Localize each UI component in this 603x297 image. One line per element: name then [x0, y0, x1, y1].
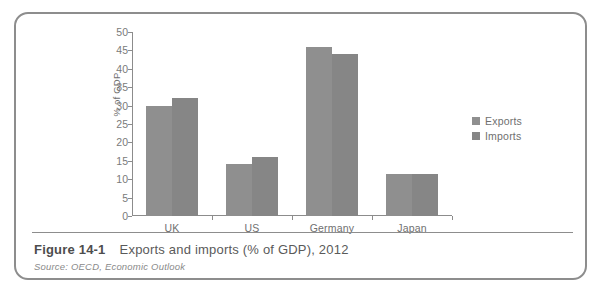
chart-region: % of GDP 05101520253035404550 UKUSGerman…: [16, 14, 589, 226]
y-tick-label: 40: [102, 64, 128, 75]
bar-exports-uk[interactable]: [146, 106, 172, 216]
x-tick-mark: [212, 216, 213, 220]
y-tick-mark: [128, 198, 132, 199]
legend-swatch-icon: [472, 132, 480, 140]
bar-imports-us[interactable]: [252, 157, 278, 216]
y-tick-mark: [128, 216, 132, 217]
y-tick-label: 30: [102, 100, 128, 111]
figure-caption: Figure 14-1Exports and imports (% of GDP…: [34, 240, 349, 258]
bar-exports-us[interactable]: [226, 164, 252, 216]
bar-group: [146, 32, 198, 216]
figure-frame: % of GDP 05101520253035404550 UKUSGerman…: [14, 12, 587, 280]
legend-item[interactable]: Exports: [472, 115, 522, 127]
legend-swatch-icon: [472, 117, 480, 125]
x-tick-mark-end: [452, 216, 453, 220]
chart-legend: ExportsImports: [472, 115, 522, 145]
y-axis-line: [132, 32, 133, 216]
y-tick-mark: [128, 87, 132, 88]
figure-title: Exports and imports (% of GDP), 2012: [120, 242, 349, 257]
figure-number: Figure 14-1: [34, 242, 106, 257]
y-tick-label: 10: [102, 174, 128, 185]
bar-exports-germany[interactable]: [306, 47, 332, 216]
legend-label: Exports: [485, 115, 522, 127]
y-tick-mark: [128, 32, 132, 33]
y-axis-tick-labels: 05101520253035404550: [102, 32, 128, 216]
y-tick-mark: [128, 179, 132, 180]
y-tick-mark: [128, 106, 132, 107]
caption-divider: [32, 232, 573, 233]
bar-exports-japan[interactable]: [386, 174, 412, 216]
y-tick-label: 0: [102, 211, 128, 222]
figure-source: Source: OECD, Economic Outlook: [34, 261, 185, 272]
y-tick-label: 15: [102, 156, 128, 167]
bar-imports-uk[interactable]: [172, 98, 198, 216]
x-tick-mark: [372, 216, 373, 220]
legend-label: Imports: [485, 130, 521, 142]
plot-area: UKUSGermanyJapan: [132, 32, 452, 216]
y-tick-label: 5: [102, 192, 128, 203]
y-tick-label: 35: [102, 82, 128, 93]
x-tick-mark: [292, 216, 293, 220]
y-tick-mark: [128, 142, 132, 143]
bar-group: [386, 32, 438, 216]
y-tick-label: 20: [102, 137, 128, 148]
y-tick-label: 45: [102, 45, 128, 56]
bar-imports-germany[interactable]: [332, 54, 358, 216]
bar-group: [306, 32, 358, 216]
y-tick-mark: [128, 50, 132, 51]
bar-group: [226, 32, 278, 216]
legend-item[interactable]: Imports: [472, 130, 522, 142]
y-tick-mark: [128, 161, 132, 162]
bar-imports-japan[interactable]: [412, 174, 438, 216]
y-tick-label: 25: [102, 119, 128, 130]
y-tick-mark: [128, 124, 132, 125]
y-tick-label: 50: [102, 27, 128, 38]
y-tick-mark: [128, 69, 132, 70]
